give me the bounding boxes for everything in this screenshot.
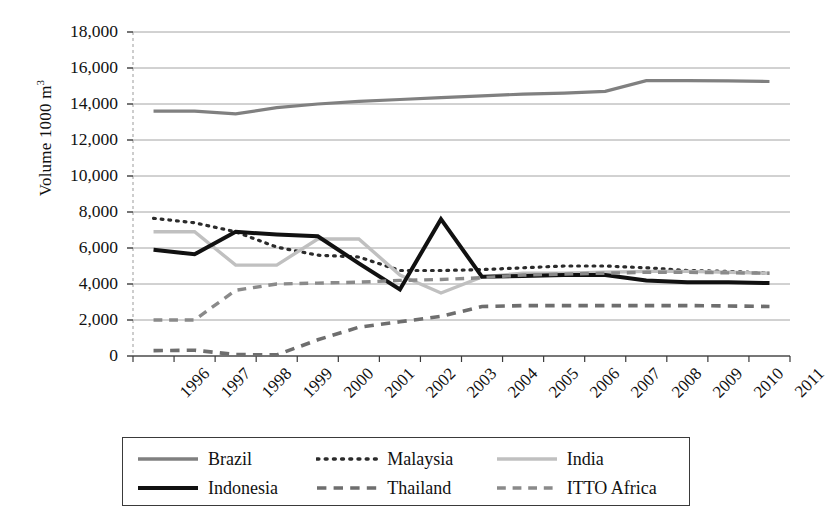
x-axis-tick-label: 1996	[175, 364, 213, 402]
legend-swatch-solid-lightgray-line	[496, 452, 558, 466]
x-axis-tick-label: 2006	[586, 364, 624, 402]
x-axis-tick-label: 1997	[217, 364, 255, 402]
legend-item-malaysia[interactable]: Malaysia	[316, 446, 495, 471]
x-axis-tick-label: 2001	[381, 364, 419, 402]
x-axis-tick-label: 2010	[750, 364, 788, 402]
legend-item-indonesia[interactable]: Indonesia	[137, 475, 316, 500]
legend-label: Malaysia	[387, 450, 453, 468]
x-axis-tick-label: 2004	[504, 364, 542, 402]
x-axis-tick-label: 2011	[791, 364, 829, 402]
legend-label: Brazil	[208, 450, 252, 468]
x-axis-tick-label: 1998	[258, 364, 296, 402]
legend-swatch-dashed-gray-line	[316, 481, 378, 495]
legend-swatch-dotted-dark-line	[316, 452, 378, 466]
legend-swatch-solid-black-line	[137, 481, 199, 495]
legend-item-itto-africa[interactable]: ITTO Africa	[496, 475, 675, 500]
chart-legend: BrazilMalaysiaIndiaIndonesiaThailandITTO…	[122, 437, 690, 506]
x-axis-tick-label: 2007	[627, 364, 665, 402]
legend-swatch-dashed-gray-line	[496, 481, 558, 495]
x-axis-tick-label: 2008	[668, 364, 706, 402]
x-axis-tick-label: 1999	[299, 364, 337, 402]
legend-item-brazil[interactable]: Brazil	[137, 446, 316, 471]
x-axis-tick-label: 2003	[463, 364, 501, 402]
legend-label: ITTO Africa	[567, 479, 657, 497]
legend-swatch-solid-gray-line	[137, 452, 199, 466]
legend-item-thailand[interactable]: Thailand	[316, 475, 495, 500]
x-axis-tick-label: 2000	[340, 364, 378, 402]
x-axis-tick-label: 2002	[422, 364, 460, 402]
x-axis-tick-label: 2009	[709, 364, 747, 402]
x-axis-tick-label: 2005	[545, 364, 583, 402]
legend-label: India	[567, 450, 604, 468]
legend-label: Thailand	[387, 479, 451, 497]
legend-item-india[interactable]: India	[496, 446, 675, 471]
legend-grid: BrazilMalaysiaIndiaIndonesiaThailandITTO…	[123, 446, 689, 500]
legend-label: Indonesia	[208, 479, 278, 497]
